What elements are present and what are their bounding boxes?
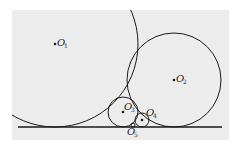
label-o5-subscript: 5	[134, 131, 138, 138]
diagram-background	[12, 10, 229, 140]
tangent-circles-diagram: O 1 O 2 O 3 O 4 O 5	[0, 0, 241, 146]
center-point-o2	[173, 79, 176, 82]
label-o2-subscript: 2	[183, 78, 187, 85]
label-o4-subscript: 4	[153, 112, 157, 119]
label-o1-subscript: 1	[64, 42, 68, 49]
center-point-o4	[141, 119, 144, 122]
center-point-o1	[54, 43, 57, 46]
label-o3-subscript: 3	[131, 106, 135, 113]
